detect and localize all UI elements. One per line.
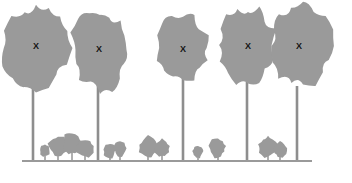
- crown-x-label: X: [245, 41, 251, 51]
- forest-profile-illustration: XXXXX: [0, 0, 352, 183]
- crown-x-label: X: [96, 44, 102, 54]
- crown-x-label: X: [180, 44, 186, 54]
- crown-x-label: X: [296, 41, 302, 51]
- crown-x-label: X: [33, 41, 39, 51]
- tree-trunk: [246, 80, 249, 161]
- tree-trunk: [97, 84, 100, 161]
- forest-profile-figure: XXXXX: [0, 0, 352, 183]
- tree-trunk: [182, 70, 185, 161]
- tree-trunk: [296, 86, 299, 161]
